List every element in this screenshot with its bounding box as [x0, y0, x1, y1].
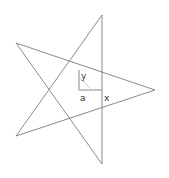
- label-y: y: [81, 71, 87, 81]
- pentagram-diagram: y a x: [0, 0, 169, 178]
- label-x: x: [104, 93, 110, 103]
- edge-upper-left-to-bottom: [16, 43, 102, 164]
- label-a: a: [80, 93, 86, 103]
- edge-top-to-lower-left: [16, 15, 102, 136]
